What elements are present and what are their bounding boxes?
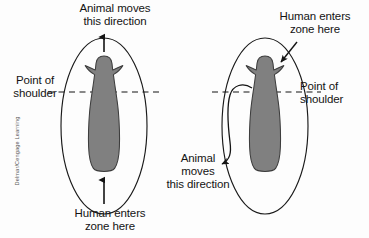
left-animal-moves-label: Animal moves this direction [55,2,175,28]
left-human-enters-zone-label: Human enters zone here [48,207,172,233]
left-panel-group [48,37,160,214]
left-animal-body [85,56,123,171]
right-human-enters-zone-label: Human enters zone here [263,10,367,36]
right-entry-arrow [281,42,297,62]
right-animal-moves-label: Animal moves this direction [148,152,248,191]
publisher-credit: Delmar/Cengage Learning [14,108,20,194]
diagram-page: Animal moves this direction Point of sho… [0,0,369,238]
left-point-of-shoulder-label: Point of shoulder [2,74,68,100]
right-animal-body [246,56,284,171]
right-point-of-shoulder-label: Point of shoulder [300,80,368,106]
